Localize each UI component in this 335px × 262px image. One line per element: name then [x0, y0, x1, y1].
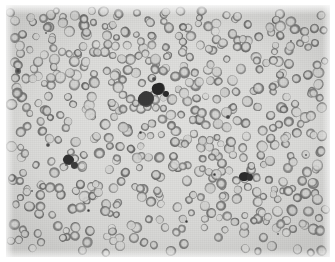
photomicrograph-page — [0, 0, 335, 262]
blood-smear-micrograph — [6, 5, 330, 257]
film-grain-overlay — [6, 5, 330, 257]
